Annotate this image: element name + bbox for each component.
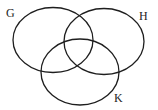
set-k-label: K <box>114 91 123 105</box>
set-h-label: H <box>139 9 148 23</box>
set-h-ellipse <box>64 9 144 75</box>
set-g-ellipse <box>13 8 93 73</box>
set-g-label: G <box>6 6 15 20</box>
venn-diagram: G H K <box>0 0 158 110</box>
